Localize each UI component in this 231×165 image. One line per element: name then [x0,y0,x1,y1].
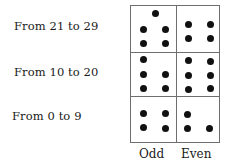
dot [207,21,214,28]
dot [152,10,159,17]
row-label-21-29: From 21 to 29 [14,19,98,33]
dot [162,71,169,78]
dot [162,26,169,33]
row-label-0-9: From 0 to 9 [12,109,82,123]
column-label-even: Even [181,147,211,161]
dot [185,72,192,79]
dot [207,72,214,79]
dot [162,125,169,132]
dot [162,40,169,47]
row-divider-2 [131,96,219,97]
dot [185,86,192,93]
dot [140,85,147,92]
dot [206,125,213,132]
dot [185,57,192,64]
row-label-10-20: From 10 to 20 [14,65,98,79]
dot [185,35,192,42]
dot [140,71,147,78]
dot [184,125,191,132]
dot [207,35,214,42]
dot [162,85,169,92]
dot [140,26,147,33]
column-divider [176,6,177,142]
dot [184,111,191,118]
dot [207,85,214,92]
dot [140,110,147,117]
column-label-odd: Odd [139,147,164,161]
dot [207,58,214,65]
dot [140,40,147,47]
dot [185,21,192,28]
dot [162,110,169,117]
dot [140,56,147,63]
row-divider-1 [131,52,219,53]
dot [140,124,147,131]
dot-grid [130,5,220,143]
